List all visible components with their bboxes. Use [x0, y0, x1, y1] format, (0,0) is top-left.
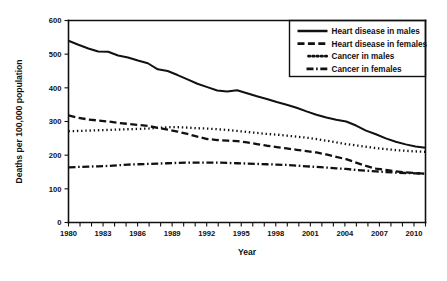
- x-tick-label: 1995: [233, 229, 251, 238]
- y-tick-label: 0: [57, 218, 61, 227]
- x-tick-label: 2010: [406, 229, 423, 238]
- y-axis-ticks: 0100200300400500600: [49, 16, 69, 227]
- y-tick-label: 300: [49, 117, 62, 126]
- x-tick-label: 1983: [95, 229, 112, 238]
- x-tick-label: 1980: [60, 229, 77, 238]
- series-line: [69, 163, 426, 174]
- y-tick-label: 200: [49, 151, 62, 160]
- x-axis-ticks: 1980198319861989199219951998200120042007…: [60, 223, 425, 239]
- x-tick-label: 1986: [129, 229, 146, 238]
- x-axis-title: Year: [238, 247, 257, 257]
- x-tick-label: 1992: [198, 229, 215, 238]
- x-tick-label: 1998: [267, 229, 284, 238]
- y-tick-label: 600: [49, 16, 62, 25]
- line-chart: 0100200300400500600 19801983198619891992…: [0, 0, 447, 281]
- legend-label: Cancer in males: [332, 52, 395, 61]
- x-tick-label: 2007: [371, 229, 388, 238]
- series-line: [69, 115, 426, 173]
- x-tick-label: 2001: [302, 229, 320, 238]
- chart-legend: Heart disease in malesHeart disease in f…: [290, 21, 428, 77]
- y-tick-label: 100: [49, 185, 62, 194]
- series-line: [69, 127, 426, 152]
- legend-label: Heart disease in females: [332, 40, 428, 49]
- x-tick-label: 2004: [336, 229, 354, 238]
- y-tick-label: 400: [49, 84, 62, 93]
- y-tick-label: 500: [49, 50, 62, 59]
- legend-label: Cancer in females: [332, 65, 403, 74]
- y-axis-title: Deaths per 100,000 population: [14, 59, 24, 183]
- legend-label: Heart disease in males: [332, 27, 421, 36]
- x-tick-label: 1989: [164, 229, 181, 238]
- chart-container: 0100200300400500600 19801983198619891992…: [0, 0, 447, 281]
